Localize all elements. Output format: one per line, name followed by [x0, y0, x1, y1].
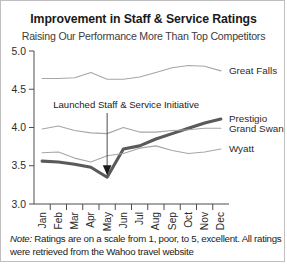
x-tick-label-feb: Feb	[53, 212, 64, 230]
x-tick-label-sep: Sep	[167, 212, 178, 230]
series-label-great-falls: Great Falls	[229, 65, 277, 76]
x-tick-label-may: May	[102, 211, 113, 231]
series-label-grand-swan: Grand Swan	[229, 123, 284, 134]
x-tick-label-oct: Oct	[183, 212, 194, 228]
x-tick-label-mar: Mar	[69, 211, 80, 229]
footnote-body: Ratings are on a scale from 1, poor, to …	[10, 233, 281, 257]
x-tick-label-aug: Aug	[150, 212, 161, 230]
line-chart-plot: 3.03.54.04.55.0 JanFebMarAprMayJunJulAug…	[1, 1, 285, 233]
series-label-wyatt: Wyatt	[229, 143, 254, 154]
x-tick-label-dec: Dec	[215, 212, 226, 230]
x-axis-tick-labels: JanFebMarAprMayJunJulAugSepOctNovDec	[37, 211, 227, 231]
footnote: Note: Ratings are on a scale from 1, poo…	[10, 233, 284, 258]
y-tick-label: 4.0	[12, 122, 27, 133]
x-axis-ticks	[50, 204, 213, 210]
annotation-text: Launched Staff & Service Initiative	[53, 99, 199, 110]
x-tick-label-jul: Jul	[134, 212, 145, 225]
x-tick-label-apr: Apr	[85, 211, 96, 227]
y-axis: 3.03.54.04.55.0	[12, 46, 34, 210]
chart-card: Improvement in Staff & Service Ratings R…	[0, 0, 285, 262]
x-axis: JanFebMarAprMayJunJulAugSepOctNovDec	[34, 204, 229, 231]
y-tick-label: 4.5	[12, 84, 27, 95]
x-tick-label-jun: Jun	[118, 212, 129, 228]
series-labels: Great FallsPrestigioGrand SwanWyatt	[229, 65, 284, 154]
y-axis-ticks	[29, 51, 34, 204]
x-tick-label-nov: Nov	[199, 211, 210, 230]
y-axis-tick-labels: 3.03.54.04.55.0	[12, 46, 27, 210]
footnote-note-word: Note:	[10, 233, 32, 244]
y-tick-label: 3.5	[12, 160, 27, 171]
y-tick-label: 3.0	[12, 199, 27, 210]
series-line-great-falls	[42, 66, 221, 80]
x-tick-label-jan: Jan	[37, 212, 48, 228]
y-tick-label: 5.0	[12, 46, 27, 57]
series-line-prestigio	[42, 119, 221, 177]
series-lines	[42, 66, 221, 178]
